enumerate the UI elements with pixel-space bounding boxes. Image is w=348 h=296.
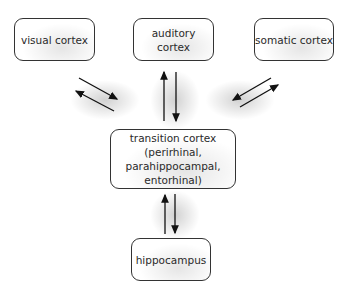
node-hippocampus: hippocampus xyxy=(131,238,211,281)
node-label-line: (perirhinal, parahippocampal, xyxy=(111,145,235,173)
node-transition-cortex: transition cortex (perirhinal, parahippo… xyxy=(110,129,236,189)
node-label: auditory cortex xyxy=(134,26,213,54)
node-label-line: transition cortex xyxy=(130,131,216,145)
node-visual-cortex: visual cortex xyxy=(14,18,95,61)
node-auditory-cortex: auditory cortex xyxy=(133,18,214,61)
node-label-line: entorhinal) xyxy=(144,173,201,187)
arrow-transition-to-somatic xyxy=(240,85,278,107)
node-somatic-cortex: somatic cortex xyxy=(254,18,334,61)
arrow-somatic-to-transition xyxy=(233,78,271,100)
node-label: visual cortex xyxy=(21,33,88,47)
node-label: somatic cortex xyxy=(255,33,333,47)
node-label: hippocampus xyxy=(136,253,207,267)
